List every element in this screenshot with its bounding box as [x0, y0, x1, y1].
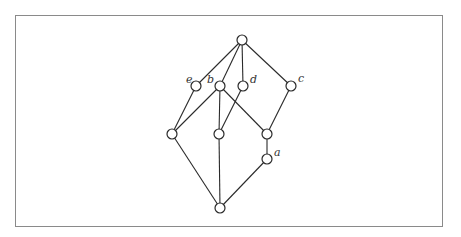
node-label-a: a — [274, 146, 281, 159]
edge-l-bot — [172, 134, 220, 208]
edge-top-b — [220, 40, 242, 86]
edge-d-m — [219, 86, 243, 134]
node-top — [237, 35, 247, 45]
edge-e-l — [172, 86, 196, 134]
node-m — [214, 129, 224, 139]
node-d — [238, 81, 248, 91]
node-label-e: e — [186, 73, 193, 86]
node-label-b: b — [207, 73, 214, 86]
edge-c-r — [267, 86, 291, 134]
edge-b-r — [220, 86, 267, 134]
node-label-c: c — [298, 72, 304, 85]
edge-b-m — [219, 86, 220, 134]
node-b — [215, 81, 225, 91]
node-l — [167, 129, 177, 139]
edge-top-e — [196, 40, 242, 86]
node-a — [262, 154, 272, 164]
edge-a-bot — [220, 159, 267, 208]
node-c — [286, 81, 296, 91]
edge-group — [172, 40, 291, 208]
node-bot — [215, 203, 225, 213]
node-label-d: d — [250, 73, 257, 86]
edge-top-d — [242, 40, 243, 86]
edge-m-bot — [219, 134, 220, 208]
edge-b-l — [172, 86, 220, 134]
hasse-diagram: ebdca — [0, 0, 461, 237]
node-r — [262, 129, 272, 139]
